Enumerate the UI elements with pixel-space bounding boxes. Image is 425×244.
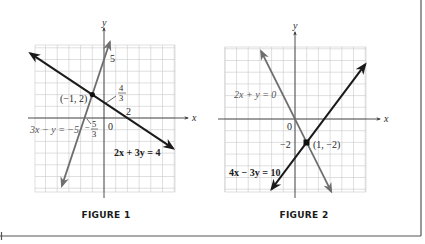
figure-1-equation-dark: 2x + 3y = 4 (114, 147, 160, 158)
figure-2-x-axis-label: x (383, 113, 389, 124)
svg-text:3: 3 (119, 93, 123, 103)
svg-text:5: 5 (92, 119, 96, 129)
figure-1-x-intercept-fraction: − 5 3 (85, 119, 98, 139)
figure-1: x y 0 5 2 4 3 − 5 3 (−1, 2) 3x − y = −5 … (28, 17, 197, 220)
figure-1-tick-5: 5 (110, 53, 115, 64)
figure-1-y-intercept-fraction: 4 3 (106, 83, 126, 103)
figure-1-leader-line (106, 96, 116, 103)
figure-2-intersection-label: (1, −2) (313, 139, 340, 151)
figure-1-x-axis-label: x (191, 112, 197, 123)
figure-1-intersection-label: (−1, 2) (60, 93, 87, 105)
figure-2-y-axis-label: y (292, 20, 298, 31)
figure-2-equation-grey: 2x + y = 0 (234, 89, 276, 100)
svg-text:−: − (85, 122, 90, 132)
page-frame (0, 0, 421, 240)
figure-1-y-axis-label: y (101, 17, 107, 28)
figure-1-equation-grey: 3x − y = −5 (29, 124, 79, 135)
figures-svg: x y 0 5 2 4 3 − 5 3 (−1, 2) 3x − y = −5 … (0, 0, 425, 244)
figure-2: x y 0 −2 (1, −2) 2x + y = 0 4x − 3y = 10… (218, 20, 389, 220)
figure-2-tick-neg2: −2 (280, 139, 291, 150)
textbook-figure-panel: x y 0 5 2 4 3 − 5 3 (−1, 2) 3x − y = −5 … (0, 0, 425, 244)
figure-1-origin-label: 0 (108, 121, 113, 132)
figure-1-intersection-point (90, 92, 95, 97)
figure-2-origin-label: 0 (287, 121, 292, 132)
svg-text:4: 4 (119, 83, 124, 93)
figure-2-intersection-point (304, 140, 310, 146)
figure-1-grid (35, 45, 175, 192)
figure-1-caption: FIGURE 1 (81, 210, 130, 220)
svg-text:3: 3 (92, 129, 96, 139)
figure-1-tick-2: 2 (126, 106, 131, 117)
figure-2-caption: FIGURE 2 (279, 210, 328, 220)
figure-2-equation-dark: 4x − 3y = 10 (229, 167, 280, 178)
